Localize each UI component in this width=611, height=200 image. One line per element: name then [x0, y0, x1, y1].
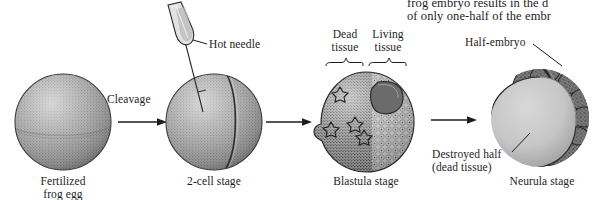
- label-stage-blastula: Blastula stage: [317, 175, 415, 188]
- label-dead-tissue-line1: Dead: [325, 28, 365, 41]
- label-stage-fertilized-egg-line1: Fertilized: [20, 175, 106, 188]
- label-stage-two-cell: 2-cell stage: [168, 175, 260, 188]
- hot-needle-icon: [168, 2, 194, 45]
- stage-neurula: [490, 60, 596, 168]
- frog-embryo-experiment-figure: frog embryo results in the d of only one…: [0, 0, 611, 200]
- stage-fertilized-egg: [15, 74, 111, 170]
- figure-artwork: [0, 0, 611, 200]
- label-arrow-cleavage: Cleavage: [107, 93, 151, 106]
- label-living-tissue-line1: Living: [368, 28, 408, 41]
- label-half-embryo: Half-embryo: [465, 36, 526, 49]
- living-tissue-brace-icon: [369, 58, 406, 66]
- label-destroyed-half-line1: Destroyed half: [432, 148, 501, 161]
- label-destroyed-half-line2: (dead tissue): [432, 161, 492, 174]
- dead-tissue-brace-icon: [326, 58, 363, 66]
- arrow-cleavage: [118, 118, 167, 126]
- label-stage-fertilized-egg-line2: frog egg: [20, 188, 106, 200]
- label-stage-neurula: Neurula stage: [492, 175, 592, 188]
- stage-blastula: [300, 60, 430, 185]
- arrow-blastula-to-neurula: [431, 116, 477, 124]
- hot-needle-leader-line: [193, 40, 207, 44]
- label-hot-needle: Hot needle: [209, 38, 260, 51]
- label-dead-tissue-line2: tissue: [325, 41, 365, 54]
- label-living-tissue-line2: tissue: [368, 41, 408, 54]
- arrow-two-to-blastula: [266, 118, 312, 126]
- half-embryo-leader-line: [533, 44, 562, 66]
